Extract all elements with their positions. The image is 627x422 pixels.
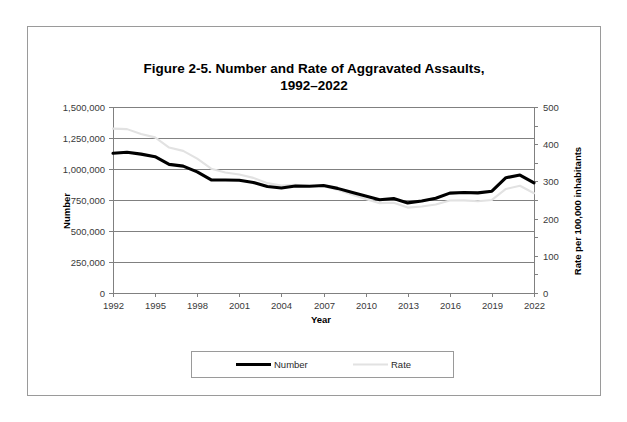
x-axis-title: Year: [311, 314, 331, 325]
rate-series-line: [113, 129, 534, 208]
right-axis-title: Rate per 100,000 inhabitants: [572, 147, 583, 275]
chart-title-line2: 1992–2022: [280, 78, 348, 93]
chart-legend: Number Rate: [191, 351, 453, 377]
x-tick-label: 2022: [524, 300, 545, 311]
right-tick-label: 500: [543, 102, 559, 113]
left-axis-ticks: [109, 108, 113, 294]
left-tick-label: 1,500,000: [63, 102, 105, 113]
x-tick-label: 2007: [314, 300, 335, 311]
left-tick-label: 500,000: [71, 226, 105, 237]
x-axis-tick-labels: 1992199519982001200420072010201320162019…: [103, 300, 545, 311]
x-tick-label: 2019: [482, 300, 503, 311]
number-series-line: [113, 152, 534, 203]
left-tick-label: 1,250,000: [63, 133, 105, 144]
right-axis-tick-labels: 0100200300400500: [543, 102, 559, 299]
right-tick-label: 0: [543, 288, 548, 299]
x-tick-label: 2010: [356, 300, 377, 311]
x-tick-label: 1998: [187, 300, 208, 311]
right-tick-label: 200: [543, 214, 559, 225]
legend-box: [191, 351, 453, 377]
x-tick-label: 1992: [103, 300, 124, 311]
right-tick-label: 300: [543, 176, 559, 187]
x-tick-label: 2016: [440, 300, 461, 311]
x-tick-label: 2013: [398, 300, 419, 311]
chart-title-line1: Figure 2-5. Number and Rate of Aggravate…: [143, 61, 484, 76]
legend-label-number: Number: [274, 359, 308, 370]
left-tick-label: 250,000: [71, 257, 105, 268]
legend-label-rate: Rate: [391, 359, 411, 370]
x-tick-label: 2001: [229, 300, 250, 311]
figure-frame: Figure 2-5. Number and Rate of Aggravate…: [27, 26, 601, 396]
left-tick-label: 0: [100, 288, 105, 299]
left-tick-label: 750,000: [71, 195, 105, 206]
aggravated-assaults-chart: Figure 2-5. Number and Rate of Aggravate…: [28, 27, 600, 395]
left-axis-title: Number: [61, 193, 72, 229]
x-tick-label: 2004: [271, 300, 292, 311]
x-tick-label: 1995: [145, 300, 166, 311]
right-tick-label: 400: [543, 139, 559, 150]
left-tick-label: 1,000,000: [63, 164, 105, 175]
right-tick-label: 100: [543, 251, 559, 262]
